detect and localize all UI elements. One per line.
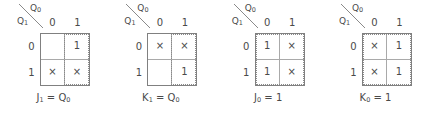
row-headers: 0 1	[25, 33, 38, 86]
kmap-grid: × × 1	[147, 33, 197, 86]
kmap-caption: K1 = Q0	[107, 92, 214, 104]
row-headers: 0 1	[240, 33, 253, 86]
kmap-cell: 1	[256, 34, 280, 60]
axis-label-q1: Q1	[124, 16, 135, 27]
kmap-diagram-sheet: Q0 Q1 0 1 0 1 1 × × J1 = Q0 Q0 Q1 0	[0, 0, 429, 116]
axis-label-q0: Q0	[245, 3, 256, 14]
column-header-1: 1	[387, 17, 412, 29]
kmap-j0: Q0 Q1 0 1 0 1 1 × 1 × J0 = 1	[215, 0, 322, 116]
row-headers: 0 1	[347, 33, 360, 86]
column-headers: 0 1	[362, 17, 412, 29]
kmap-cell: 1	[387, 34, 411, 60]
row-header-1: 1	[240, 60, 253, 87]
column-header-1: 1	[172, 17, 197, 29]
row-header-0: 0	[25, 33, 38, 60]
column-header-0: 0	[147, 17, 172, 29]
row-header-1: 1	[347, 60, 360, 87]
row-header-0: 0	[240, 33, 253, 60]
row-header-0: 0	[347, 33, 360, 60]
kmap-cell	[148, 60, 172, 86]
kmap-cell: ×	[148, 34, 172, 60]
kmap-cell: 1	[172, 60, 196, 86]
kmap-caption: J1 = Q0	[0, 92, 107, 104]
column-headers: 0 1	[255, 17, 305, 29]
kmap-k0: Q0 Q1 0 1 0 1 × 1 × 1 K0 = 1	[322, 0, 429, 116]
axis-label-q1: Q1	[232, 16, 243, 27]
row-headers: 0 1	[132, 33, 145, 86]
kmap-cell: ×	[280, 60, 304, 86]
column-headers: 0 1	[147, 17, 197, 29]
kmap-cell: ×	[65, 60, 89, 86]
kmap-cell: 1	[256, 60, 280, 86]
column-header-0: 0	[255, 17, 280, 29]
row-header-1: 1	[132, 60, 145, 87]
axis-label-q0: Q0	[30, 3, 41, 14]
axis-label-q0: Q0	[137, 3, 148, 14]
column-header-1: 1	[280, 17, 305, 29]
kmap-cell	[41, 34, 65, 60]
column-header-1: 1	[65, 17, 90, 29]
kmap-grid: 1 × ×	[40, 33, 90, 86]
kmap-grid: × 1 × 1	[362, 33, 412, 86]
kmap-cell: ×	[280, 34, 304, 60]
kmap-cell: ×	[172, 34, 196, 60]
kmap-caption: J0 = 1	[215, 92, 322, 104]
kmap-j1: Q0 Q1 0 1 0 1 1 × × J1 = Q0	[0, 0, 107, 116]
axis-label-q1: Q1	[339, 16, 350, 27]
kmap-grid: 1 × 1 ×	[255, 33, 305, 86]
kmap-cell: 1	[65, 34, 89, 60]
row-header-0: 0	[132, 33, 145, 60]
kmap-caption: K0 = 1	[322, 92, 429, 104]
kmap-cell: ×	[41, 60, 65, 86]
axis-label-q1: Q1	[17, 16, 28, 27]
kmap-cell: ×	[363, 34, 387, 60]
axis-label-q0: Q0	[352, 3, 363, 14]
row-header-1: 1	[25, 60, 38, 87]
kmap-k1: Q0 Q1 0 1 0 1 × × 1 K1 = Q0	[107, 0, 214, 116]
kmap-cell: ×	[363, 60, 387, 86]
kmap-cell: 1	[387, 60, 411, 86]
column-header-0: 0	[40, 17, 65, 29]
column-headers: 0 1	[40, 17, 90, 29]
column-header-0: 0	[362, 17, 387, 29]
